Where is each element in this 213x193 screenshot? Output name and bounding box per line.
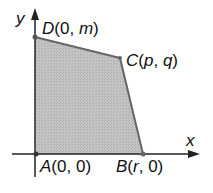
- vertex-d-dot: [33, 35, 38, 40]
- vertex-c-label: C(p, q): [126, 51, 178, 70]
- vertex-c-dot: [118, 56, 122, 60]
- x-axis-label: x: [185, 131, 195, 150]
- y-axis-label: y: [15, 9, 26, 28]
- vertex-b-label: B(r, 0): [116, 157, 163, 176]
- vertex-d-label: D(0, m): [42, 19, 99, 38]
- x-axis-arrow-icon: [188, 150, 200, 158]
- quadrilateral-diagram: y x D(0, m) C(p, q) A(0, 0) B(r, 0): [0, 0, 213, 193]
- vertex-a-label: A(0, 0): [39, 157, 91, 176]
- vertex-b-dot: [141, 152, 146, 157]
- y-axis-arrow-icon: [31, 8, 39, 20]
- vertex-a-dot: [34, 152, 39, 157]
